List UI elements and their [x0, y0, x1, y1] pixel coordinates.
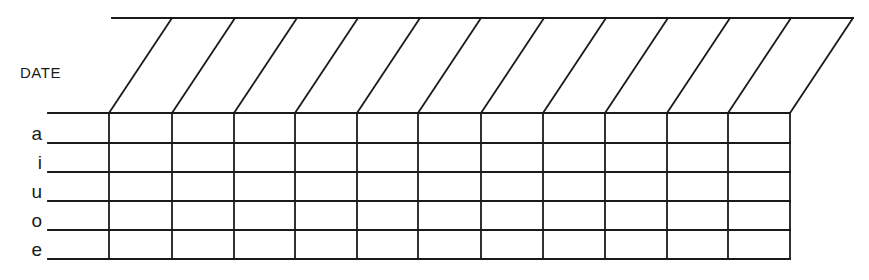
- entry-cell[interactable]: [545, 174, 603, 199]
- entry-cell[interactable]: [111, 232, 170, 257]
- entry-cell[interactable]: [174, 145, 232, 170]
- entry-cell[interactable]: [545, 232, 603, 257]
- entry-cell[interactable]: [359, 203, 416, 228]
- entry-cell[interactable]: [236, 145, 293, 170]
- entry-cell[interactable]: [111, 145, 170, 170]
- entry-cell[interactable]: [236, 174, 293, 199]
- entry-cell[interactable]: [669, 232, 726, 257]
- date-entry-slot[interactable]: [701, 45, 751, 85]
- entry-cell[interactable]: [607, 232, 665, 257]
- entry-cell[interactable]: [669, 203, 726, 228]
- entry-cell[interactable]: [111, 203, 170, 228]
- entry-cell[interactable]: [545, 203, 603, 228]
- entry-cell[interactable]: [669, 115, 726, 141]
- entry-cell[interactable]: [236, 232, 293, 257]
- entry-cell[interactable]: [730, 115, 788, 141]
- entry-cell[interactable]: [730, 232, 788, 257]
- date-entry-slot[interactable]: [639, 45, 689, 85]
- entry-cell[interactable]: [483, 203, 541, 228]
- row-label-u: u: [20, 182, 42, 202]
- entry-cell[interactable]: [174, 203, 232, 228]
- entry-cell[interactable]: [420, 203, 479, 228]
- entry-cell[interactable]: [730, 174, 788, 199]
- entry-cell[interactable]: [420, 145, 479, 170]
- date-entry-slot[interactable]: [452, 45, 502, 85]
- entry-cell[interactable]: [483, 115, 541, 141]
- entry-cell[interactable]: [359, 145, 416, 170]
- entry-cell[interactable]: [359, 232, 416, 257]
- entry-cell[interactable]: [174, 174, 232, 199]
- date-entry-slot[interactable]: [268, 45, 318, 85]
- entry-cell[interactable]: [420, 115, 479, 141]
- entry-cell[interactable]: [297, 145, 355, 170]
- entry-cell[interactable]: [297, 174, 355, 199]
- row-label-a: a: [20, 124, 42, 144]
- entry-cell[interactable]: [607, 174, 665, 199]
- entry-cell[interactable]: [174, 232, 232, 257]
- entry-cell[interactable]: [730, 145, 788, 170]
- entry-cell[interactable]: [483, 145, 541, 170]
- entry-cell[interactable]: [669, 145, 726, 170]
- date-entry-slot[interactable]: [143, 45, 193, 85]
- entry-cell[interactable]: [236, 115, 293, 141]
- entry-cell[interactable]: [545, 115, 603, 141]
- entry-cell[interactable]: [111, 174, 170, 199]
- entry-cell[interactable]: [607, 115, 665, 141]
- entry-cell[interactable]: [669, 174, 726, 199]
- date-entry-slot[interactable]: [391, 45, 441, 85]
- entry-cell[interactable]: [174, 115, 232, 141]
- date-header-label: DATE: [20, 64, 61, 82]
- row-label-o: o: [20, 211, 42, 231]
- entry-cell[interactable]: [111, 115, 170, 141]
- date-entry-slot[interactable]: [206, 45, 256, 85]
- entry-cell[interactable]: [607, 203, 665, 228]
- entry-cell[interactable]: [607, 145, 665, 170]
- date-entry-slot[interactable]: [329, 45, 379, 85]
- entry-cell[interactable]: [483, 174, 541, 199]
- row-label-i: i: [20, 153, 42, 173]
- entry-cell[interactable]: [483, 232, 541, 257]
- entry-cell[interactable]: [359, 115, 416, 141]
- entry-cell[interactable]: [420, 232, 479, 257]
- entry-cell[interactable]: [297, 115, 355, 141]
- entry-cell[interactable]: [730, 203, 788, 228]
- date-entry-slot[interactable]: [577, 45, 627, 85]
- date-entry-slot[interactable]: [762, 45, 812, 85]
- entry-cell[interactable]: [297, 232, 355, 257]
- date-entry-slot[interactable]: [515, 45, 565, 85]
- row-label-e: e: [20, 240, 42, 260]
- entry-cell[interactable]: [359, 174, 416, 199]
- entry-cell[interactable]: [545, 145, 603, 170]
- entry-cell[interactable]: [236, 203, 293, 228]
- entry-cell[interactable]: [420, 174, 479, 199]
- entry-cell[interactable]: [297, 203, 355, 228]
